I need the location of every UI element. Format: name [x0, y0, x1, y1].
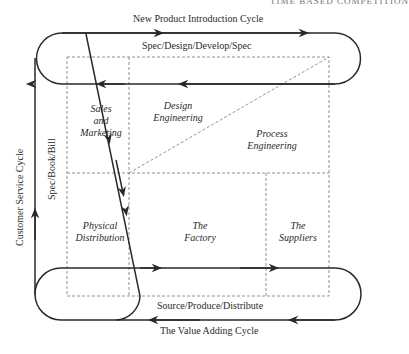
new-product-cycle-subtitle: Spec/Design/Develop/Spec [142, 40, 251, 52]
label-line: Engineering [148, 112, 208, 124]
label-line: Process [240, 128, 304, 140]
label-line: Factory [170, 232, 230, 244]
label-line: The [272, 220, 324, 232]
value-adding-cycle-title: The Value Adding Cycle [160, 325, 258, 337]
label-line: The [170, 220, 230, 232]
label-line: Suppliers [272, 232, 324, 244]
outer-dashed-box [67, 57, 329, 296]
label-physical-distribution: Physical Distribution [72, 220, 128, 244]
label-process-engineering: Process Engineering [240, 128, 304, 152]
value-adding-loop [35, 268, 361, 320]
value-adding-cycle-subtitle: Source/Produce/Distribute [157, 300, 263, 312]
label-line: Engineering [240, 140, 304, 152]
label-line: and [78, 115, 124, 127]
label-suppliers: The Suppliers [272, 220, 324, 244]
new-product-cycle-title: New Product Introduction Cycle [133, 13, 263, 25]
label-design-engineering: Design Engineering [148, 100, 208, 124]
customer-service-cycle-title: Customer Service Cycle [14, 149, 25, 246]
label-factory: The Factory [170, 220, 230, 244]
customer-service-cycle-subtitle: Spec/Book/Bill [46, 138, 57, 200]
label-line: Sales [78, 103, 124, 115]
label-line: Physical [72, 220, 128, 232]
label-sales-marketing: Sales and Marketing [78, 103, 124, 139]
label-line: Distribution [72, 232, 128, 244]
function-boxes [67, 57, 329, 296]
label-line: Design [148, 100, 208, 112]
label-line: Marketing [78, 127, 124, 139]
